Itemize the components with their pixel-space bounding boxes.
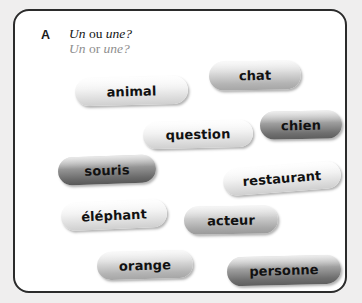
word-pill-label: orange — [119, 257, 171, 273]
word-pill-label: restaurant — [242, 168, 322, 189]
word-pill-chat[interactable]: chat — [209, 60, 301, 91]
exercise-header: A Un ou une? Un or une? — [15, 11, 345, 57]
word-pill-label: éléphant — [81, 206, 147, 224]
word-pill-label: acteur — [207, 212, 255, 228]
exercise-panel: A Un ou une? Un or une? animalchatquesti… — [13, 9, 347, 293]
word-pill-label: personne — [249, 262, 319, 279]
word-pill-label: souris — [84, 162, 130, 179]
word-pill-label: question — [165, 126, 230, 143]
word-pill-animal[interactable]: animal — [75, 76, 189, 107]
prompt-run: or — [86, 41, 104, 56]
word-pill-label: chien — [281, 117, 321, 133]
word-pill-personne[interactable]: personne — [227, 255, 342, 287]
prompt-run: une? — [106, 26, 132, 41]
word-pill-souris[interactable]: souris — [58, 154, 157, 185]
prompt-french: Un ou une? — [69, 26, 132, 41]
prompt-run: Un — [69, 41, 86, 56]
word-pill-label: animal — [106, 83, 156, 99]
prompt-run: Un — [69, 26, 86, 41]
word-pill-acteur[interactable]: acteur — [184, 205, 278, 235]
word-pill-restaurant[interactable]: restaurant — [222, 160, 342, 196]
word-pill-orange[interactable]: orange — [97, 250, 194, 281]
word-pill-chien[interactable]: chien — [260, 110, 342, 139]
word-pill-question[interactable]: question — [143, 120, 254, 150]
exercise-letter: A — [41, 28, 50, 42]
prompt-english: Un or une? — [69, 41, 130, 56]
page-background: A Un ou une? Un or une? animalchatquesti… — [0, 0, 362, 303]
word-pill-lphant[interactable]: éléphant — [60, 199, 167, 232]
prompt-run: une? — [104, 41, 130, 56]
word-pill-label: chat — [239, 68, 272, 84]
prompt-run: ou — [86, 26, 106, 41]
